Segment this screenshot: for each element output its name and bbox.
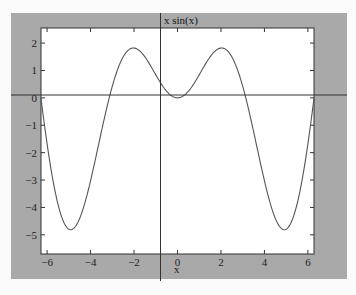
- x-tick-label: −2: [128, 256, 140, 268]
- y-tick-label: −3: [25, 174, 37, 186]
- chart: −6−4−20246210−1−2−3−4−5 x sin(x) x: [0, 0, 356, 295]
- x-axis-label: x: [174, 263, 180, 275]
- y-tick-label: −1: [25, 119, 37, 131]
- x-tick-label: 6: [305, 256, 311, 268]
- x-tick-label: 2: [218, 256, 224, 268]
- x-tick-label: 4: [262, 256, 268, 268]
- y-tick-label: 2: [32, 37, 38, 49]
- y-tick-label: −4: [25, 201, 37, 213]
- plot-area: [41, 28, 314, 254]
- y-tick-label: −5: [25, 229, 37, 241]
- y-tick-label: −2: [25, 147, 37, 159]
- y-tick-label: 0: [32, 92, 38, 104]
- y-tick-label: 1: [32, 64, 38, 76]
- chart-title: x sin(x): [164, 14, 198, 27]
- x-tick-label: −6: [41, 256, 53, 268]
- x-tick-label: −4: [85, 256, 97, 268]
